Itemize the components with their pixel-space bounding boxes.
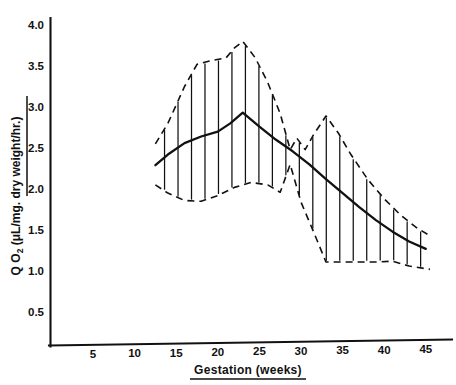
x-tick-label: 45 bbox=[419, 343, 432, 355]
y-tick-label: 2.5 bbox=[28, 142, 45, 154]
x-tick-label: 15 bbox=[170, 347, 183, 359]
x-tick-label: 20 bbox=[211, 346, 224, 358]
x-tick-label: 25 bbox=[253, 345, 266, 357]
y-tick-label: 2.0 bbox=[28, 183, 44, 195]
y-tick-label: 3.5 bbox=[28, 60, 45, 72]
x-tick-label: 10 bbox=[128, 347, 141, 359]
y-tick-label: 1.5 bbox=[28, 224, 45, 236]
y-tick-label: 0.5 bbox=[28, 306, 45, 318]
y-tick-label: 4.0 bbox=[28, 19, 44, 31]
y-axis-title-main: Q O bbox=[9, 253, 23, 275]
y-axis-title-rest: (μL/mg. dry weight/hr.) bbox=[9, 117, 23, 249]
x-axis-tick-labels: 51015202530354045 bbox=[90, 343, 433, 360]
y-tick-label: 1.0 bbox=[28, 265, 44, 277]
x-tick-label: 30 bbox=[295, 345, 308, 357]
svg-text:Q O2 (μL/mg. dry weight/hr.): Q O2 (μL/mg. dry weight/hr.) bbox=[9, 117, 25, 276]
range-band-hatching bbox=[165, 46, 421, 267]
x-axis-title: Gestation (weeks) bbox=[194, 363, 302, 377]
lower-range-boundary bbox=[155, 164, 430, 269]
x-tick-label: 5 bbox=[90, 348, 97, 360]
y-tick-label: 3.0 bbox=[28, 101, 44, 113]
x-tick-label: 40 bbox=[378, 344, 391, 356]
y-axis-title: Q O2 (μL/mg. dry weight/hr.) bbox=[9, 117, 25, 276]
mean-curve bbox=[155, 113, 425, 249]
x-axis-line bbox=[49, 340, 452, 346]
y-axis-tick-labels: 0.51.01.52.02.53.03.54.0 bbox=[28, 19, 45, 318]
x-tick-label: 35 bbox=[336, 344, 349, 356]
qo2-gestation-chart: 0.51.01.52.02.53.03.54.0 510152025303540… bbox=[0, 0, 456, 385]
chart-figure: 0.51.01.52.02.53.03.54.0 510152025303540… bbox=[0, 0, 456, 385]
